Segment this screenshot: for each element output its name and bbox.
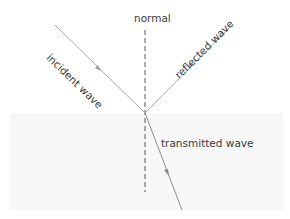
normal-label: normal [134,13,171,24]
transmitted-wave-label: transmitted wave [161,138,254,149]
wave-reflection-diagram: normal incident wave reflected wave tran… [0,0,290,219]
ray-lines [0,0,290,219]
incident-arrow-icon [95,65,101,71]
transmitted-ray [145,113,182,210]
transmitted-arrow-icon [164,169,169,176]
